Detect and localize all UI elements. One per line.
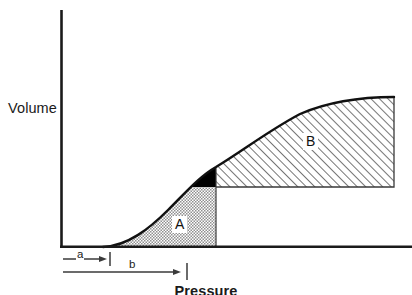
segment-a-label: a bbox=[76, 249, 84, 261]
region-a-fill bbox=[61, 187, 216, 247]
pressure-volume-figure: Volume Pressure A B a b bbox=[0, 0, 412, 295]
x-axis-label: Pressure bbox=[0, 283, 412, 295]
region-b-label: B bbox=[303, 133, 318, 150]
segment-b-label: b bbox=[128, 259, 136, 271]
black-wedge-fill bbox=[150, 150, 216, 187]
region-a-label: A bbox=[172, 216, 187, 233]
y-axis-label: Volume bbox=[8, 100, 57, 116]
segment-b-arrowhead bbox=[173, 269, 181, 275]
plot-canvas bbox=[0, 0, 412, 295]
segment-a-arrowhead bbox=[99, 256, 107, 262]
